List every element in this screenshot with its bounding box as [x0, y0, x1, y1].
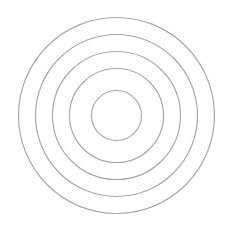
circle-ring-5: [19, 18, 215, 214]
circle-ring-4: [36, 35, 198, 197]
circle-ring-3: [53, 52, 181, 180]
circle-ring-1: [92, 91, 142, 141]
rings-group: [19, 18, 215, 214]
circle-ring-2: [70, 69, 164, 163]
concentric-circles-diagram: [0, 0, 230, 227]
